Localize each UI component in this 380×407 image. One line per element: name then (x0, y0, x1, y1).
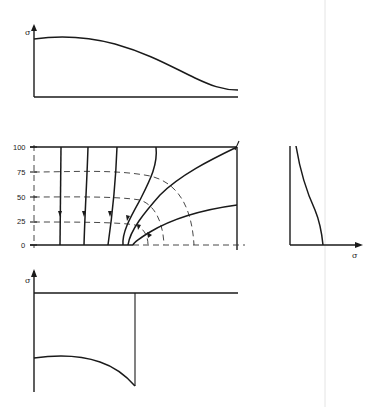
main-field-plot: 100 75 50 25 0 (13, 141, 245, 250)
tick-75: 75 (17, 168, 25, 177)
trajectory-6 (133, 205, 237, 245)
top-stress-plot: σ (25, 24, 238, 97)
top-stress-curve (34, 37, 238, 90)
contour-75 (34, 171, 194, 245)
arrow-down-icon (137, 224, 141, 230)
bottom-sigma-label: σ (25, 276, 31, 285)
trajectory-3 (108, 147, 117, 245)
trajectory-4 (123, 147, 156, 245)
trajectory-2 (84, 147, 88, 245)
top-sigma-label: σ (25, 28, 31, 37)
stress-trajectories (58, 147, 237, 245)
tick-100: 100 (13, 143, 26, 152)
tick-0: 0 (21, 241, 25, 250)
right-sigma-label: σ (352, 251, 358, 260)
tick-50: 50 (17, 193, 25, 202)
top-y-arrow-icon (31, 24, 37, 31)
tick-25: 25 (17, 217, 25, 226)
bottom-stress-curve (34, 356, 135, 386)
stress-diagram: σ 100 75 50 25 0 (0, 0, 380, 407)
right-x-arrow-icon (355, 242, 363, 248)
trajectory-1 (60, 147, 61, 245)
right-stress-plot: σ (290, 146, 363, 260)
bottom-stress-plot: σ (25, 269, 238, 392)
right-stress-curve (296, 146, 323, 245)
dashed-contours (34, 171, 194, 245)
bottom-y-arrow-icon (31, 269, 37, 277)
arrow-down-icon (58, 211, 62, 217)
trajectory-5 (128, 147, 237, 245)
y-tick-labels: 100 75 50 25 0 (13, 143, 37, 250)
contour-50 (34, 197, 164, 245)
